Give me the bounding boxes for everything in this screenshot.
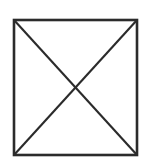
- square-with-diagonals-diagram: [0, 0, 149, 164]
- figure-canvas: [0, 0, 149, 164]
